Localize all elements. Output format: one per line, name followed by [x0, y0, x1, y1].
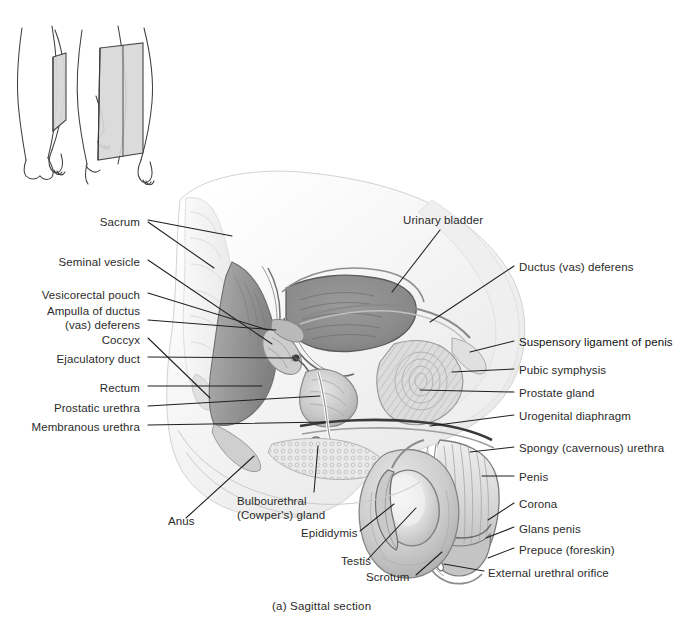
label-vesicorectal-pouch: Vesicorectal pouch — [42, 289, 140, 303]
label-prostatic-urethra: Prostatic urethra — [54, 402, 140, 416]
label-spongy-cavernous-urethra: Spongy (cavernous) urethra — [519, 442, 664, 456]
sagittal-anatomy-group — [167, 171, 525, 584]
label-pubic-symphysis: Pubic symphysis — [519, 364, 606, 378]
label-membranous-urethra: Membranous urethra — [31, 421, 140, 435]
orientation-inset-group — [18, 26, 154, 185]
plane-left — [53, 53, 66, 131]
label-rectum: Rectum — [100, 382, 140, 396]
label-urinary-bladder: Urinary bladder — [403, 214, 483, 228]
label-urogenital-diaphragm: Urogenital diaphragm — [519, 410, 631, 424]
label-ductus-vas-deferens: Ductus (vas) deferens — [519, 261, 634, 275]
label-sacrum: Sacrum — [100, 216, 140, 230]
figure-container: Sacrum Seminal vesicle Vesicorectal pouc… — [0, 0, 678, 630]
label-prostate-gland: Prostate gland — [519, 387, 595, 401]
label-coccyx: Coccyx — [102, 334, 140, 348]
label-epididymis: Epididymis — [301, 527, 358, 541]
label-scrotum: Scrotum — [366, 571, 410, 585]
label-penis: Penis — [519, 471, 548, 485]
label-ejaculatory-duct: Ejaculatory duct — [57, 353, 140, 367]
figure-caption: (a) Sagittal section — [272, 600, 371, 612]
label-glans-penis: Glans penis — [519, 523, 581, 537]
label-ampulla-of-ductus-vas-deferens: Ampulla of ductus (vas) deferens — [47, 305, 140, 332]
label-bulbourethral-cowpers-gland: Bulbourethral (Cowper's) gland — [237, 495, 325, 522]
label-anus: Anus — [168, 515, 195, 529]
label-external-urethral-orifice: External urethral orifice — [488, 567, 609, 581]
label-suspensory-ligament-of-penis: Suspensory ligament of penis — [519, 336, 673, 350]
label-seminal-vesicle: Seminal vesicle — [59, 256, 140, 270]
plane-right — [98, 43, 143, 160]
label-corona: Corona — [519, 498, 557, 512]
label-prepuce-foreskin: Prepuce (foreskin) — [519, 544, 615, 558]
label-testis: Testis — [341, 555, 371, 569]
